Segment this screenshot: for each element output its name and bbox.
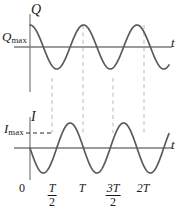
guide-lines-group [52, 25, 144, 133]
q-max-label: Qmax [2, 30, 27, 45]
fraction-numerator: 3T [106, 182, 121, 196]
q-max-subscript: max [11, 35, 27, 45]
x-tick-t-over-2: T 2 [48, 182, 57, 208]
t-axis-label-top: t [171, 36, 175, 49]
x-tick-2t: 2T [137, 182, 150, 194]
t-axis-label-bottom: t [171, 138, 175, 151]
physics-waveform-figure: Q Qmax I Imax t t 0 T 2 T 3T 2 2T [0, 0, 189, 210]
fraction-denominator: 2 [106, 196, 121, 209]
waveform-plot-svg [0, 0, 189, 210]
fraction-3t-over-2: 3T 2 [106, 182, 121, 208]
i-max-label: Imax [4, 122, 24, 137]
i-max-subscript: max [8, 127, 24, 137]
fraction-denominator: 2 [48, 196, 57, 209]
q-max-symbol: Q [2, 29, 11, 44]
i-axis-label: I [31, 110, 36, 124]
x-tick-t: T [79, 182, 86, 194]
q-axis-label: Q [31, 3, 41, 17]
fraction-t-over-2: T 2 [48, 182, 57, 208]
fraction-numerator: T [48, 182, 57, 196]
x-tick-3t-over-2: 3T 2 [106, 182, 121, 208]
x-tick-0: 0 [19, 182, 25, 194]
